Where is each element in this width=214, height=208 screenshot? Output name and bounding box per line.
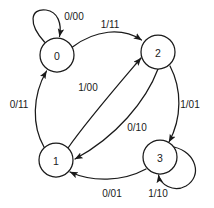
state-node-3[interactable]: 3 [143,140,177,174]
edge-label-0-to-0: 0/00 [64,11,84,22]
edge-3-to-1 [70,169,146,179]
edge-label-1-to-0: 0/11 [10,99,29,110]
edge-label-0-to-2: 1/11 [101,19,120,30]
edge-1-to-2 [68,58,141,148]
state-label-3: 3 [157,152,163,164]
edge-label-3-to-1: 0/01 [102,188,122,199]
edge-label-2-to-3: 1/01 [180,99,200,110]
state-label-1: 1 [53,155,59,167]
state-node-0[interactable]: 0 [40,38,74,72]
edge-1-to-0 [35,71,46,147]
state-label-0: 0 [54,50,60,62]
fsm-svg: 0 2 1 3 0/00 1/11 0/11 1/00 0/10 1/01 0/… [0,0,214,208]
edge-label-3-to-3: 1/10 [148,188,168,199]
edge-2-to-3 [169,66,179,142]
state-node-1[interactable]: 1 [39,143,73,177]
edge-label-1-to-2: 1/00 [78,82,98,93]
edge-0-to-2 [73,32,142,47]
edge-label-2-to-1: 0/10 [127,122,147,133]
edge-0-to-0 [33,10,60,42]
state-diagram-canvas: 0 2 1 3 0/00 1/11 0/11 1/00 0/10 1/01 0/… [0,0,214,208]
state-node-2[interactable]: 2 [141,35,175,69]
state-label-2: 2 [155,47,161,59]
